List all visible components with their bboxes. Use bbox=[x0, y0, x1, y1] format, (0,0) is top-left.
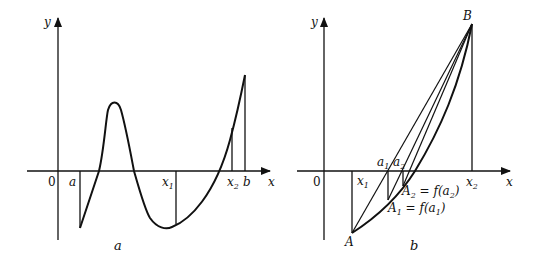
y-axis-label: y bbox=[43, 15, 51, 29]
tick-x1: x1 bbox=[162, 175, 174, 191]
chord-A2-B bbox=[403, 24, 472, 186]
tick-a1: a1 bbox=[377, 155, 389, 171]
x-axis-label: x bbox=[268, 175, 275, 189]
point-B-label: B bbox=[462, 9, 472, 23]
tick-b: b bbox=[243, 175, 251, 189]
annotation-A2: A2 = f(a2) bbox=[401, 184, 460, 200]
origin-label: 0 bbox=[48, 175, 56, 189]
chord-A1-B bbox=[388, 24, 472, 200]
caption-b: b bbox=[410, 238, 418, 253]
diagram-canvas: y 0 a x1 x2 b x a y 0 A bbox=[0, 0, 535, 261]
tick-x1: x1 bbox=[357, 174, 369, 190]
figure-a: y 0 a x1 x2 b x a bbox=[27, 15, 275, 253]
tick-a2: a2 bbox=[393, 155, 405, 171]
annotation-A1: A1 = f(a1) bbox=[387, 201, 446, 217]
tick-x2: x2 bbox=[466, 175, 478, 191]
y-axis-label: y bbox=[310, 15, 318, 29]
point-A-label: A bbox=[344, 235, 354, 249]
tick-x2: x2 bbox=[227, 175, 239, 191]
function-curve bbox=[80, 75, 245, 228]
x-axis-label: x bbox=[506, 175, 513, 189]
figure-b: y 0 A B x1 a1 a2 x2 x A2 = f(a2) A1 = f(… bbox=[297, 9, 513, 253]
origin-label: 0 bbox=[313, 175, 321, 189]
caption-a: a bbox=[114, 238, 122, 253]
tick-a: a bbox=[69, 175, 76, 189]
